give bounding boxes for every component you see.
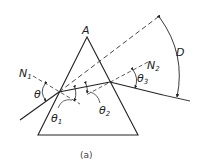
figure-caption: (a) bbox=[80, 150, 93, 160]
deviation-label: D bbox=[176, 46, 184, 59]
normal-n2-label: N2 bbox=[147, 59, 160, 73]
theta-arc bbox=[42, 84, 46, 101]
theta1-label: θ1 bbox=[51, 112, 62, 126]
refracted-ray bbox=[59, 82, 110, 92]
theta2-arc bbox=[86, 84, 87, 93]
theta1-leader bbox=[58, 100, 72, 108]
normal-n1-label: N1 bbox=[19, 67, 32, 81]
apex-label: A bbox=[81, 24, 90, 37]
theta2-label: θ2 bbox=[99, 104, 111, 118]
theta-label: θ bbox=[34, 88, 41, 101]
theta1-arc bbox=[74, 88, 76, 101]
prism-diagram: A N1 N2 θ θ1 θ2 θ3 D (a) bbox=[0, 0, 203, 165]
emergent-reference-line bbox=[163, 95, 190, 101]
theta3-label: θ3 bbox=[137, 72, 148, 86]
theta2-leader bbox=[90, 92, 100, 103]
